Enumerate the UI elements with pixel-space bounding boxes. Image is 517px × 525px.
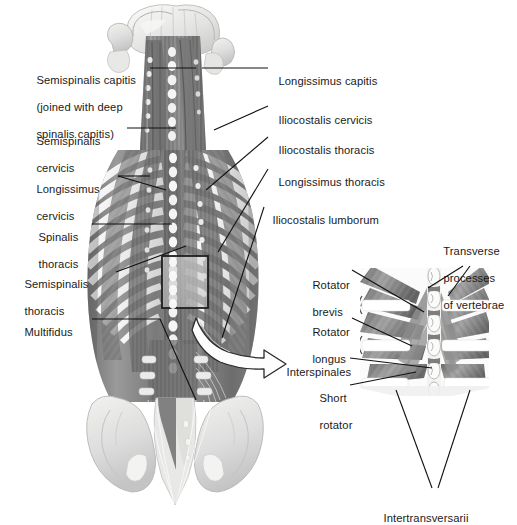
anatomical-figure: Semispinalis capitis (joined with deep s…	[0, 0, 517, 525]
label-line: Rotator	[312, 279, 349, 291]
label-line: Transverse	[443, 245, 500, 257]
label-multifidus: Multifidus	[18, 313, 73, 340]
label-line: Semispinalis	[24, 278, 88, 290]
label-line: of vertebrae	[443, 299, 504, 311]
label-line: Multifidus	[24, 326, 72, 338]
label-iliocostalis-lumborum: Iliocostalis lumborum	[266, 201, 379, 228]
label-line: Intertransversarii	[383, 512, 468, 524]
label-line: Longissimus thoracis	[278, 176, 384, 188]
label-transverse-processes-of-vertebrae: Transverse processes of vertebrae	[437, 232, 504, 312]
label-line: Iliocostalis cervicis	[278, 114, 372, 126]
label-line: Iliocostalis thoracis	[278, 144, 374, 156]
label-line: rotator	[319, 419, 352, 431]
label-iliocostalis-cervicis: Iliocostalis cervicis	[272, 101, 373, 128]
detail-highlight-box[interactable]	[162, 256, 208, 309]
label-line: (joined with deep	[36, 101, 122, 113]
label-iliocostalis-thoracis: Iliocostalis thoracis	[272, 131, 374, 158]
label-line: Rotator	[312, 326, 349, 338]
label-line: Spinalis	[38, 231, 78, 243]
label-line: Semispinalis	[36, 135, 100, 147]
label-line: Iliocostalis lumborum	[272, 214, 379, 226]
label-line: processes	[443, 272, 495, 284]
label-line: Longissimus	[36, 183, 99, 195]
label-semispinalis-cervicis: Semispinalis cervicis	[30, 122, 100, 176]
label-line: Short	[319, 392, 346, 404]
label-longissimus-cervicis: Longissimus cervicis	[30, 170, 100, 224]
label-rotator-brevis: Rotator brevis	[306, 266, 350, 320]
cervical-region	[136, 36, 210, 152]
label-longissimus-thoracis: Longissimus thoracis	[272, 163, 385, 190]
label-interspinales: Interspinales	[280, 353, 351, 380]
label-semispinalis-thoracis: Semispinalis thoracis	[18, 265, 88, 319]
label-short-rotator: Short rotator	[313, 379, 352, 433]
label-spinalis-thoracis: Spinalis thoracis	[32, 218, 78, 272]
label-intertransversarii: Intertransversarii	[377, 499, 469, 525]
label-line: Semispinalis capitis	[36, 74, 136, 86]
label-longissimus-capitis: Longissimus capitis	[272, 62, 377, 89]
label-line: Interspinales	[286, 366, 351, 378]
label-line: Longissimus capitis	[278, 75, 377, 87]
